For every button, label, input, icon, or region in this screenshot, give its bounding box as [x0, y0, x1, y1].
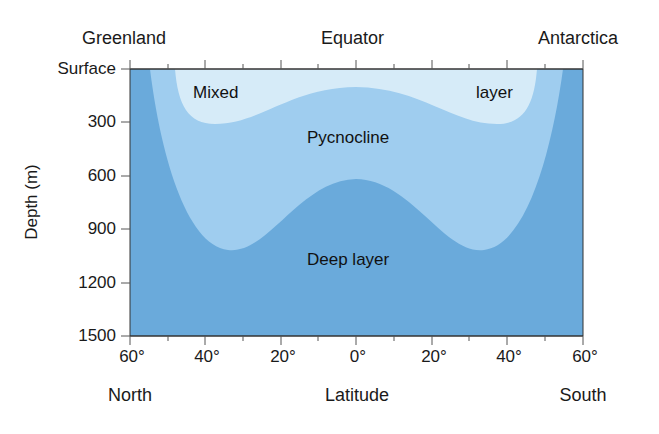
label-mixed: Mixed: [193, 83, 238, 103]
label-north: North: [108, 385, 152, 406]
label-antarctica: Antarctica: [538, 28, 618, 49]
xtick-60s: 60°: [572, 347, 598, 367]
xtick-0: 0°: [350, 347, 366, 367]
xtick-60n: 60°: [119, 347, 145, 367]
label-equator: Equator: [321, 28, 384, 49]
ytick-1200: 1200: [46, 273, 116, 293]
xtick-20n: 20°: [270, 347, 296, 367]
ytick-300: 300: [46, 112, 116, 132]
label-deep-layer: Deep layer: [307, 250, 389, 270]
ytick-1500: 1500: [46, 326, 116, 346]
label-layer: layer: [476, 83, 513, 103]
xtick-40n: 40°: [194, 347, 220, 367]
bottom-ticks: [130, 336, 583, 345]
xtick-40s: 40°: [496, 347, 522, 367]
ytick-900: 900: [46, 219, 116, 239]
label-pycnocline: Pycnocline: [307, 128, 389, 148]
label-south: South: [559, 385, 606, 406]
xtick-20s: 20°: [421, 347, 447, 367]
ytick-600: 600: [46, 166, 116, 186]
ytick-surface: Surface: [46, 59, 116, 79]
label-greenland: Greenland: [82, 28, 166, 49]
left-ticks: [121, 69, 130, 336]
x-axis-label: Latitude: [325, 385, 389, 406]
y-axis-label: Depth (m): [22, 164, 42, 240]
top-ticks: [130, 60, 583, 69]
